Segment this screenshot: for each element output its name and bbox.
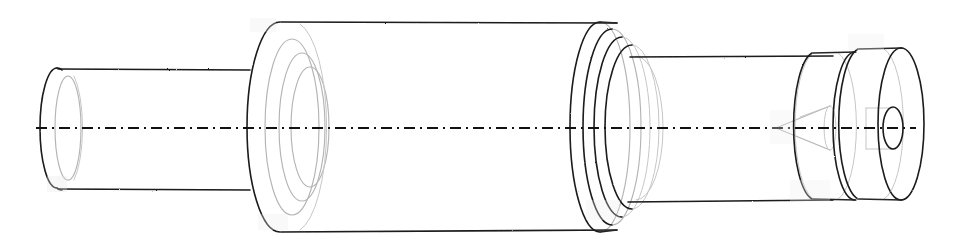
paper-background [0, 0, 958, 246]
medium-cylinder-top-silhouette [630, 56, 833, 57]
small-tube-top-silhouette [58, 69, 250, 70]
technical-drawing [0, 0, 958, 246]
small-tube-bottom-silhouette [58, 189, 250, 190]
drawing-canvas [0, 0, 958, 246]
large-cylinder-top-silhouette [281, 22, 617, 23]
